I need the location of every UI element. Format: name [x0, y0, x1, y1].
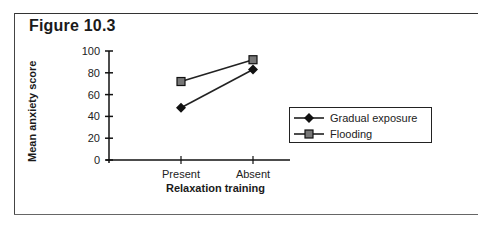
diamond-data-point — [176, 103, 186, 113]
y-tick-label: 100 — [82, 45, 100, 57]
y-tick-label: 80 — [88, 67, 100, 79]
legend-item-gradual-exposure: Gradual exposure — [290, 110, 417, 126]
x-tick-label: Absent — [236, 168, 270, 180]
square-data-point — [177, 78, 185, 86]
x-tick-label: Present — [162, 168, 200, 180]
square-data-point — [249, 56, 257, 64]
y-tick-label: 40 — [88, 110, 100, 122]
legend-label: Gradual exposure — [330, 112, 417, 124]
y-tick-label: 20 — [88, 132, 100, 144]
square-marker-icon — [290, 126, 326, 142]
legend-label: Flooding — [330, 128, 372, 140]
diamond-marker-icon — [290, 110, 326, 126]
legend: Gradual exposure Flooding — [289, 107, 432, 143]
y-tick-label: 0 — [94, 154, 100, 166]
legend-item-flooding: Flooding — [290, 126, 372, 142]
series-line — [181, 70, 253, 108]
series-line — [181, 60, 253, 82]
y-tick-label: 60 — [88, 89, 100, 101]
diamond-data-point — [248, 65, 258, 75]
